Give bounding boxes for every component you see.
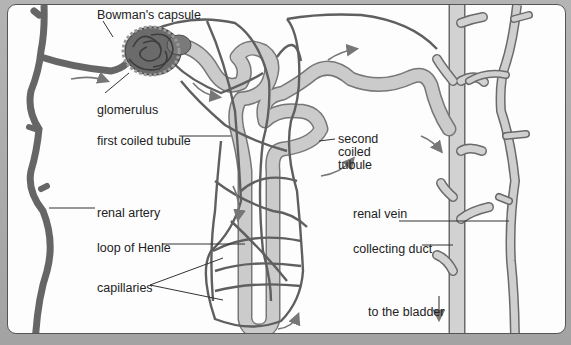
renal-vein — [469, 5, 529, 333]
label-to-the-bladder: to the bladder — [368, 306, 444, 319]
label-capillaries: capillaries — [97, 282, 153, 295]
tubule — [179, 45, 449, 331]
label-loop-of-henle: loop of Henle — [97, 242, 171, 255]
label-renal-artery: renal artery — [97, 207, 160, 220]
label-collecting-duct: collecting duct — [353, 243, 432, 256]
diagram-panel: Bowman's capsule glomerulus first coiled… — [7, 4, 566, 334]
label-glomerulus: glomerulus — [97, 104, 158, 117]
label-second-line3: tubule — [338, 159, 378, 172]
label-renal-vein: renal vein — [353, 208, 407, 221]
flow-into-duct — [421, 136, 441, 151]
collecting-duct — [437, 5, 489, 333]
flow-along-tubule — [328, 49, 356, 60]
capillaries — [151, 15, 437, 327]
label-second-coiled-tubule: second coiled tubule — [338, 133, 378, 172]
nephron-illustration — [8, 5, 565, 333]
flow-into-glomerulus — [71, 77, 107, 81]
label-first-coiled-tubule: first coiled tubule — [97, 135, 191, 148]
label-bowmans-capsule: Bowman's capsule — [97, 9, 201, 22]
